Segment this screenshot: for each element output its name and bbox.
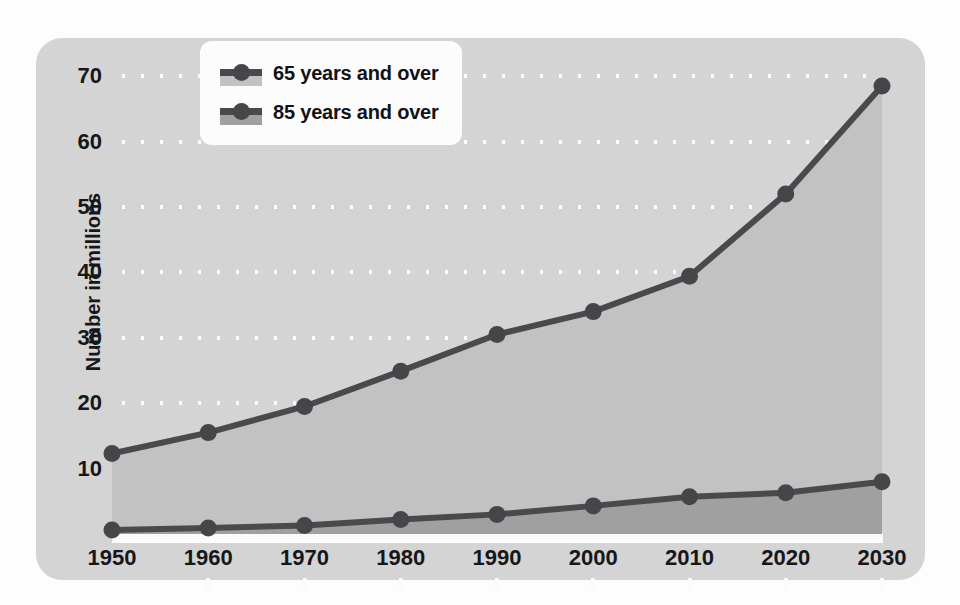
data-point-marker[interactable] [777,185,794,202]
data-point-marker[interactable] [200,520,217,537]
legend-swatch-icon [220,60,262,86]
x-axis-tick-label: 1960 [184,545,233,571]
data-point-marker[interactable] [777,484,794,501]
x-axis-tick-mark [784,578,788,591]
legend-marker-icon [233,103,250,120]
chart-figure: Number in millions 10203040506070 195019… [0,0,960,605]
x-axis-tick-label: 1970 [280,545,329,571]
legend-label: 65 years and over [273,62,439,85]
legend-label: 85 years and over [273,101,439,124]
x-axis-tick-label: 1990 [473,545,522,571]
data-point-marker[interactable] [104,522,121,539]
data-point-marker[interactable] [874,77,891,94]
x-axis-tick-label: 1980 [376,545,425,571]
data-point-marker[interactable] [681,488,698,505]
x-axis-tick-mark [399,578,403,591]
x-axis-tick-mark [303,578,307,591]
x-axis-tick-mark [880,578,884,591]
x-axis-tick-mark [495,578,499,591]
legend-marker-icon [233,64,250,81]
x-axis-tick-label: 2000 [569,545,618,571]
series-area-65-years-and-over [112,86,882,534]
chart-legend: 65 years and over 85 years and over [200,41,462,145]
x-axis-tick-label: 1950 [88,545,137,571]
legend-item-85-years-and-over[interactable]: 85 years and over [220,97,439,127]
y-axis-tick-label: 10 [78,456,102,482]
data-point-marker[interactable] [296,517,313,534]
y-axis-tick-label: 30 [78,325,102,351]
data-point-marker[interactable] [489,506,506,523]
x-axis-tick-label: 2020 [761,545,810,571]
y-axis-tick-label: 50 [78,194,102,220]
x-axis-tick-mark [688,578,692,591]
x-axis-tick-mark [206,578,210,591]
x-axis-tick-label: 2010 [665,545,714,571]
data-point-marker[interactable] [489,326,506,343]
legend-item-65-years-and-over[interactable]: 65 years and over [220,58,439,88]
x-axis-tick-label: 2030 [858,545,907,571]
y-axis-tick-label: 60 [78,129,102,155]
data-point-marker[interactable] [296,398,313,415]
y-axis-tick-label: 40 [78,259,102,285]
data-point-marker[interactable] [392,363,409,380]
legend-swatch-icon [220,99,262,125]
y-axis-tick-label: 20 [78,390,102,416]
x-axis-tick-mark [591,578,595,591]
data-point-marker[interactable] [681,268,698,285]
data-point-marker[interactable] [585,497,602,514]
data-point-marker[interactable] [104,445,121,462]
y-axis-tick-label: 70 [78,63,102,89]
x-axis-line [112,533,883,543]
data-point-marker[interactable] [874,473,891,490]
data-point-marker[interactable] [585,303,602,320]
data-point-marker[interactable] [392,511,409,528]
data-point-marker[interactable] [200,424,217,441]
